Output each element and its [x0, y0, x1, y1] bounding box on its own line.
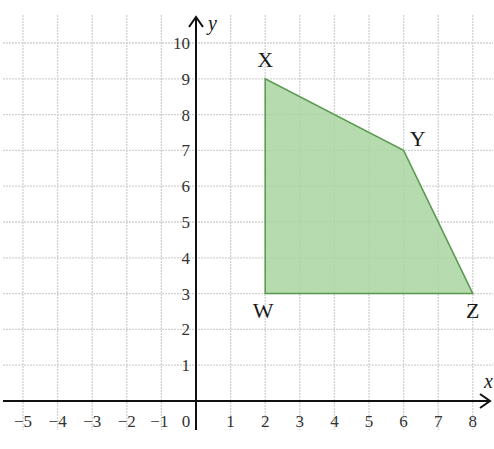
- x-tick-labels: −5−4−3−2−1012345678: [14, 412, 477, 431]
- vertex-label-w: W: [253, 298, 274, 323]
- x-tick-label: 7: [434, 412, 443, 431]
- y-tick-label: 4: [182, 249, 191, 268]
- x-tick-label: −2: [118, 412, 136, 431]
- y-tick-label: 7: [182, 141, 191, 160]
- x-tick-label: 3: [296, 412, 305, 431]
- y-tick-labels: 12345678910: [173, 34, 191, 375]
- y-tick-label: 6: [182, 177, 191, 196]
- y-axis-label: y: [206, 12, 217, 35]
- x-tick-label: 6: [399, 412, 408, 431]
- y-tick-label: 5: [182, 213, 191, 232]
- x-axis-label: x: [483, 370, 493, 392]
- x-tick-label: 1: [226, 412, 235, 431]
- x-tick-label: 2: [261, 412, 270, 431]
- y-tick-label: 10: [173, 34, 190, 53]
- coordinate-diagram: x y −5−4−3−2−1012345678 12345678910 WXYZ: [0, 0, 494, 449]
- coordinate-plane: x y −5−4−3−2−1012345678 12345678910 WXYZ: [0, 0, 494, 449]
- x-tick-label: −4: [49, 412, 68, 431]
- x-tick-label: 0: [182, 412, 191, 431]
- y-tick-label: 2: [182, 320, 191, 339]
- y-tick-label: 3: [182, 285, 191, 304]
- y-tick-label: 1: [182, 356, 191, 375]
- x-tick-label: −3: [83, 412, 101, 431]
- vertex-label-y: Y: [410, 126, 426, 151]
- y-tick-label: 9: [182, 70, 191, 89]
- x-tick-label: 8: [469, 412, 478, 431]
- x-tick-label: 5: [365, 412, 374, 431]
- x-tick-label: −1: [150, 412, 168, 431]
- x-tick-label: 4: [330, 412, 339, 431]
- y-tick-label: 8: [182, 106, 191, 125]
- vertex-label-z: Z: [466, 298, 479, 323]
- vertex-label-x: X: [257, 47, 273, 72]
- x-tick-label: −5: [14, 412, 32, 431]
